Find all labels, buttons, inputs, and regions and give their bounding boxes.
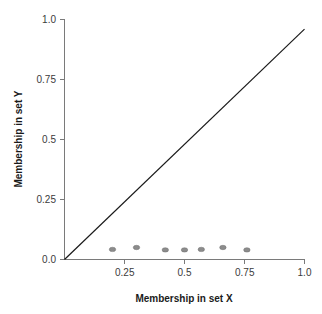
x-tick-label-0.75: 0.75 — [235, 267, 255, 278]
y-axis-title: Membership in set Y — [13, 90, 24, 187]
data-point-marker — [133, 245, 139, 249]
data-point-marker — [220, 245, 226, 249]
data-point-marker — [198, 247, 204, 251]
x-tick-label-0.25: 0.25 — [115, 267, 135, 278]
y-tick-label-0.25: 0.25 — [37, 194, 57, 205]
diagonal-reference-line — [65, 29, 305, 259]
y-tick-label-0.5: 0.5 — [42, 134, 56, 145]
chart-figure: 1.0 0.75 0.5 0.25 0.0 0.25 0.5 0.75 1.0 … — [0, 0, 322, 314]
y-tick-label-1.0: 1.0 — [42, 14, 56, 25]
data-point-marker — [244, 248, 250, 252]
scatter-plot-svg: 1.0 0.75 0.5 0.25 0.0 0.25 0.5 0.75 1.0 … — [0, 0, 322, 314]
x-tick-label-1.0: 1.0 — [298, 267, 312, 278]
x-axis-title: Membership in set X — [135, 293, 233, 304]
data-point-group — [109, 245, 250, 252]
y-tick-label-0.0: 0.0 — [42, 254, 56, 265]
data-point-marker — [181, 248, 187, 252]
data-point-marker — [162, 248, 168, 252]
data-point-marker — [109, 247, 115, 251]
y-tick-label-0.75: 0.75 — [37, 74, 57, 85]
x-tick-label-0.5: 0.5 — [178, 267, 192, 278]
